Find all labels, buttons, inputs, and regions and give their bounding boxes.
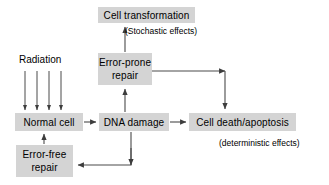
node-error-prone-repair[interactable]: Error-prone repair bbox=[98, 53, 152, 85]
node-cell-death-apoptosis[interactable]: Cell death/apoptosis bbox=[189, 113, 296, 131]
label-stochastic-effects: (Stochastic effects) bbox=[125, 25, 197, 37]
label-radiation: Radiation bbox=[19, 54, 61, 66]
node-normal-cell-label: Normal cell bbox=[23, 116, 74, 129]
radiation-arrow-group bbox=[25, 71, 61, 110]
node-error-free-repair-label: Error-free repair bbox=[23, 148, 67, 174]
node-normal-cell[interactable]: Normal cell bbox=[15, 113, 83, 131]
node-error-free-repair[interactable]: Error-free repair bbox=[16, 145, 73, 177]
node-cell-death-apoptosis-label: Cell death/apoptosis bbox=[196, 116, 289, 129]
edge-dna-damage-to-error-free bbox=[78, 132, 131, 165]
label-deterministic-effects: (deterministic effects) bbox=[219, 137, 300, 149]
node-cell-transformation[interactable]: Cell transformation bbox=[98, 7, 195, 23]
node-dna-damage[interactable]: DNA damage bbox=[99, 113, 169, 131]
diagram-canvas: Cell transformation Error-prone repair N… bbox=[0, 0, 329, 185]
node-cell-transformation-label: Cell transformation bbox=[104, 9, 190, 22]
node-error-prone-repair-label: Error-prone repair bbox=[99, 56, 151, 82]
node-dna-damage-label: DNA damage bbox=[104, 116, 164, 129]
